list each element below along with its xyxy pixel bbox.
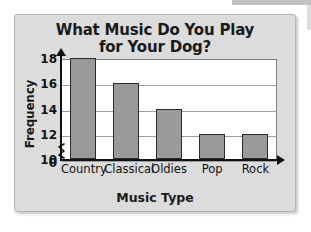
y-axis-arrow-icon <box>56 48 66 56</box>
y-axis-tick-label: 18 <box>31 52 57 66</box>
axis-break-icon <box>55 143 67 159</box>
x-axis-title: Music Type <box>15 190 295 205</box>
plot-area <box>61 59 277 160</box>
y-axis-tick-label: 16 <box>31 77 57 91</box>
y-axis-tick-label: 10 <box>31 153 57 167</box>
x-axis-tick-label: Country <box>61 162 104 176</box>
right-edge-artifact <box>307 0 311 30</box>
chart-panel: What Music Do You Play for Your Dog? Fre… <box>14 14 296 212</box>
x-axis-line <box>60 159 278 161</box>
y-axis-tick-label: 12 <box>31 128 57 142</box>
x-axis-tick-label: Classical <box>104 162 147 176</box>
bar <box>70 58 96 159</box>
y-axis-tick-labels: 01012141618 <box>27 15 57 213</box>
y-axis-tick-label: 14 <box>31 103 57 117</box>
bar <box>242 134 268 159</box>
x-axis-tick-label: Rock <box>234 162 277 176</box>
bar <box>199 134 225 159</box>
top-edge-artifact <box>232 0 311 5</box>
x-axis-tick-label: Pop <box>191 162 234 176</box>
chart-title-line-1: What Music Do You Play <box>15 22 295 39</box>
bar <box>156 109 182 160</box>
x-axis-tick-label: Oldies <box>147 162 190 176</box>
x-axis-tick-labels: CountryClassicalOldiesPopRock <box>61 162 279 180</box>
bar <box>113 83 139 159</box>
